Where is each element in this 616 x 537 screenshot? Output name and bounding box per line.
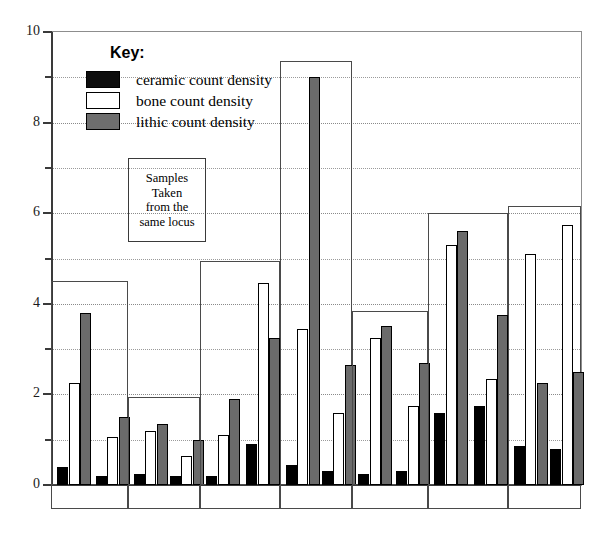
- legend-title: Key:: [110, 44, 272, 62]
- bar-lithic: [157, 424, 168, 485]
- bar-bone: [218, 435, 229, 485]
- bar-ceramic: [206, 476, 217, 485]
- group-label-box: [51, 485, 128, 509]
- bar-lithic: [537, 383, 548, 485]
- group-label-box: [508, 485, 581, 509]
- bar-ceramic: [286, 465, 297, 485]
- bar-ceramic: [396, 471, 407, 485]
- bar-lithic: [497, 315, 508, 485]
- bar-ceramic: [322, 471, 333, 485]
- bar-lithic: [381, 326, 392, 485]
- legend-entry-ceramic: ceramic count density: [86, 71, 272, 88]
- bar-bone: [145, 431, 156, 485]
- bar-bone: [370, 338, 381, 485]
- bar-bone: [69, 383, 80, 485]
- legend-swatch-bone: [86, 92, 120, 109]
- legend-label-bone: bone count density: [136, 92, 253, 109]
- group-label-box: [200, 485, 280, 509]
- group-label-box: [128, 485, 200, 509]
- annotation-box: Samples Taken from the same locus: [128, 158, 206, 242]
- legend-swatch-lithic: [86, 113, 120, 130]
- bar-lithic: [229, 399, 240, 485]
- legend-label-ceramic: ceramic count density: [136, 71, 272, 88]
- bar-lithic: [573, 372, 584, 485]
- group-label-box: [352, 485, 428, 509]
- bar-bone: [446, 245, 457, 485]
- bar-ceramic: [96, 476, 107, 485]
- bar-ceramic: [514, 446, 525, 485]
- bar-bone: [181, 456, 192, 485]
- bar-ceramic: [358, 474, 369, 485]
- bar-bone: [333, 413, 344, 485]
- bar-ceramic: [474, 406, 485, 485]
- annotation-line-3: from the: [146, 200, 189, 215]
- bar-bone: [562, 225, 573, 485]
- legend-entry-lithic: lithic count density: [86, 113, 272, 130]
- bar-lithic: [457, 231, 468, 485]
- bar-lithic: [269, 338, 280, 485]
- legend: Key: ceramic count density bone count de…: [86, 44, 272, 134]
- legend-label-lithic: lithic count density: [136, 113, 255, 130]
- bar-chart: 0246810 Key: ceramic count density bone …: [0, 0, 616, 537]
- bar-ceramic: [170, 476, 181, 485]
- annotation-line-1: Samples: [146, 171, 188, 186]
- bar-ceramic: [550, 449, 561, 485]
- legend-swatch-ceramic: [86, 71, 120, 88]
- legend-entry-bone: bone count density: [86, 92, 272, 109]
- bar-lithic: [309, 77, 320, 485]
- bar-ceramic: [246, 444, 257, 485]
- group-label-box: [428, 485, 508, 509]
- bar-bone: [525, 254, 536, 485]
- bar-bone: [408, 406, 419, 485]
- group-label-box: [280, 485, 352, 509]
- annotation-line-2: Taken: [152, 186, 182, 201]
- bar-lithic: [80, 313, 91, 485]
- bar-ceramic: [434, 413, 445, 485]
- annotation-line-4: same locus: [139, 215, 194, 230]
- bar-bone: [107, 437, 118, 485]
- bar-bone: [297, 329, 308, 485]
- bar-bone: [486, 379, 497, 485]
- bar-ceramic: [134, 474, 145, 485]
- bar-ceramic: [57, 467, 68, 485]
- bar-bone: [258, 283, 269, 485]
